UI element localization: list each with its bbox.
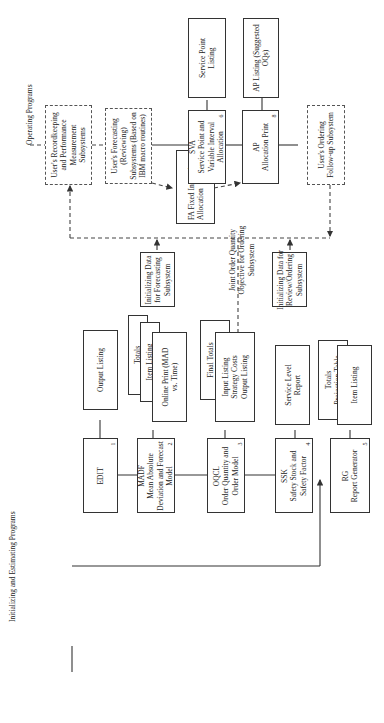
subsystem-forecasting: User's Forecasting (Reviewing) Subsystem… xyxy=(105,108,152,184)
program-madf: MADFMean Absolute Deviation and Forecast… xyxy=(137,438,175,513)
tag-init-review-label: Initializing Data for Review/Ordering Su… xyxy=(275,250,303,310)
report-service-point-listing: Service Point Listing xyxy=(188,18,226,98)
program-oqcl: OQCLOrder Quantity and Order Model 3 xyxy=(207,438,245,513)
oqcl-output-text: Output Listing xyxy=(240,355,249,399)
report-output-listing-label: Output Listing xyxy=(96,348,105,392)
annotation-joint-oq-text: Joint Order Quantity Objective for Order… xyxy=(228,215,256,305)
oqcl-num: 3 xyxy=(237,443,243,446)
program-ap-label: APAllocation Print xyxy=(251,112,270,182)
subsystem-recordkeeping: User's Recordkeeping and Performance Mea… xyxy=(45,105,92,185)
oqcl-input-text: Input Listing xyxy=(221,358,230,397)
madf-text: MADFMean Absolute Deviation and Forecast… xyxy=(137,441,175,511)
ssk-num: 4 xyxy=(305,443,311,446)
rg-desc: Report Generator xyxy=(350,449,359,501)
tag-init-review: Initializing Data for Review/Ordering Su… xyxy=(272,252,307,307)
oqcl-listing-label: Input ListingStrategy CostsOutput Listin… xyxy=(221,355,249,399)
program-ssk: SSKSafety Stock and Safety Factor 4 xyxy=(275,438,313,513)
oqcl-strategy-text: Strategy Costs xyxy=(230,355,239,399)
ap-name: AP xyxy=(251,142,260,152)
tag-init-forecast-label: Initializing Data for Forecasting Subsys… xyxy=(143,252,171,307)
report-ap-listing: AP Listing (Suggested OQs) xyxy=(243,18,279,98)
service-level-label: Service Level Report xyxy=(283,360,302,410)
ssk-name: SSK xyxy=(280,469,289,483)
madf-desc: Mean Absolute Deviation and Forecast Mod… xyxy=(147,441,175,511)
program-ap: APAllocation Print 8 xyxy=(242,110,279,184)
edit-a-num: 1 xyxy=(110,443,116,446)
subsystem-ordering-label: User's Ordering Follow-up Subsystem xyxy=(317,110,336,180)
madf-online-label: Online Print (MAD vs. Time) xyxy=(160,347,179,407)
ssk-desc: Safety Stock and Safety Factor xyxy=(289,450,307,501)
oqcl-desc: Order Quantity and Order Model xyxy=(221,446,239,504)
oqcl-final-text: Final Totals xyxy=(206,342,215,377)
oqcl-name: OQCL xyxy=(212,465,221,485)
report-ap-listing-label: AP Listing (Suggested OQs) xyxy=(252,23,271,93)
report-oqcl-listing: Input ListingStrategy CostsOutput Listin… xyxy=(215,332,255,422)
program-rg: RGReport Generator 5 xyxy=(330,438,370,513)
report-output-listing: Output Listing xyxy=(83,330,118,410)
rg-num: 5 xyxy=(362,443,368,446)
rg-item-listing-label: Item Listing xyxy=(350,367,359,404)
sva-desc: Service Point and Variable Interval Allo… xyxy=(198,121,226,174)
rg-totals-text: Totals xyxy=(324,371,333,389)
sva-name: SVA xyxy=(188,140,197,154)
madf-num: 2 xyxy=(167,443,173,446)
report-rg-item-listing: Item Listing xyxy=(337,345,372,425)
oqcl-text: OQCLOrder Quantity and Order Model xyxy=(212,440,240,512)
edit-a-text: EDIT xyxy=(96,467,105,484)
ap-desc: Allocation Print xyxy=(261,123,270,171)
report-service-point-label: Service Point Listing xyxy=(198,28,217,88)
tag-init-forecasting: Initializing Data for Forecasting Subsys… xyxy=(140,252,175,307)
ssk-text: SSKSafety Stock and Safety Factor xyxy=(280,441,308,511)
report-madf-online-print: Online Print (MAD vs. Time) xyxy=(152,332,187,422)
subsystem-forecasting-label: User's Forecasting (Reviewing) Subsystem… xyxy=(110,110,148,182)
sva-number: 6 xyxy=(218,115,224,118)
subsystem-ordering: User's Ordering Follow-up Subsystem xyxy=(307,105,345,185)
madf-name: MADF xyxy=(137,465,146,487)
rg-text: RGReport Generator xyxy=(341,441,360,511)
program-sva: SVAService Point and Variable Interval A… xyxy=(188,110,226,184)
rg-name: RG xyxy=(341,470,350,480)
program-sva-label: SVAService Point and Variable Interval A… xyxy=(188,112,226,182)
ap-number: 8 xyxy=(271,115,277,118)
program-edit-vendor-direct: EDIT 1 xyxy=(83,438,118,513)
report-service-level: Service Level Report xyxy=(275,345,310,425)
fa-name: FA xyxy=(186,211,195,220)
flowchart-direct-layer: .r{position:absolute;border:1.2px solid … xyxy=(0,0,384,723)
subsystem-recordkeeping-label: User's Recordkeeping and Performance Mea… xyxy=(50,109,88,181)
